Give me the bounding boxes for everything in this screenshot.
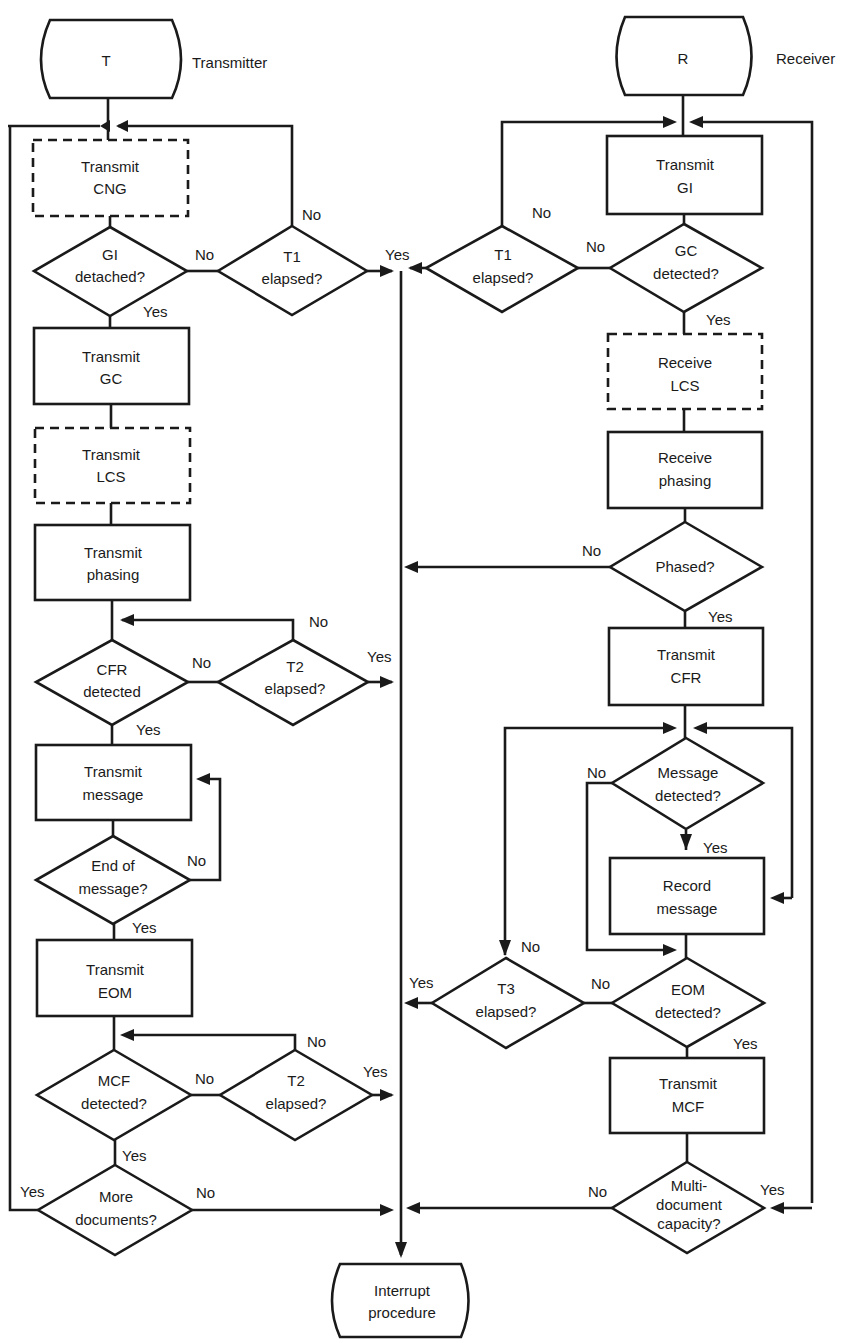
node-label: message [657, 900, 718, 917]
node-label: T1 [494, 246, 512, 263]
node-label: GI [102, 246, 118, 263]
branch-label-no: No [302, 206, 321, 223]
node-label: documents? [75, 1211, 157, 1228]
node-label: CFR [97, 661, 128, 678]
node-label: Transmit [656, 156, 715, 173]
branch-label-yes: Yes [385, 246, 409, 263]
arrow-right-icon [380, 676, 394, 688]
process-transmit-cfr: Transmit CFR [609, 628, 763, 705]
branch-label-no: No [521, 938, 540, 955]
branch-label-no: No [586, 238, 605, 255]
branch-label-yes: Yes [706, 311, 730, 328]
branch-label-no: No [195, 246, 214, 263]
decision-t1-elapsed-transmitter: T1 elapsed? [218, 226, 367, 315]
arrow-left-icon [408, 262, 422, 274]
terminal-label: procedure [368, 1304, 436, 1321]
node-label: detected? [655, 1004, 721, 1021]
branch-label-no: No [196, 1184, 215, 1201]
branch-label-no: No [591, 975, 610, 992]
decision-t2-elapsed-cfr: T2 elapsed? [218, 640, 368, 725]
node-label: Record [663, 877, 711, 894]
branch-label-no: No [532, 204, 551, 221]
branch-label-yes: Yes [363, 1063, 387, 1080]
arrow-left-icon [404, 561, 418, 573]
branch-label-yes: Yes [703, 839, 727, 856]
branch-label-yes: Yes [143, 303, 167, 320]
branch-label-yes: Yes [132, 919, 156, 936]
process-transmit-phasing: Transmit phasing [35, 525, 190, 600]
decision-more-documents: More documents? [38, 1165, 192, 1255]
process-transmit-lcs: Transmit LCS [35, 428, 190, 503]
arrow-left-icon [120, 614, 134, 626]
arrow-right-icon [380, 1204, 394, 1216]
branch-label-no: No [587, 764, 606, 781]
branch-label-no: No [192, 654, 211, 671]
node-label: Transmit [82, 348, 141, 365]
arrow-right-icon [663, 722, 677, 734]
node-label: detected [83, 683, 141, 700]
node-label: GC [675, 242, 698, 259]
node-label: EOM [671, 981, 705, 998]
node-label: Message [658, 764, 719, 781]
node-label: elapsed? [266, 1095, 327, 1112]
node-label: Transmit [84, 763, 143, 780]
fax-protocol-flowchart: T Transmitter R Receiver Interrupt proce… [0, 0, 842, 1343]
arrow-left-icon [770, 1202, 784, 1214]
node-label: capacity? [657, 1215, 720, 1232]
arrow-left-icon [120, 1029, 134, 1041]
terminal-label: Interrupt [374, 1282, 431, 1299]
node-label: End of [91, 857, 135, 874]
process-transmit-message: Transmit message [36, 745, 191, 820]
node-label: phasing [659, 472, 712, 489]
arrow-down-icon [395, 1242, 407, 1258]
node-label: detached? [75, 268, 145, 285]
node-label: LCS [670, 377, 699, 394]
decision-t3-elapsed: T3 elapsed? [432, 958, 584, 1048]
decision-phased: Phased? [610, 522, 762, 611]
branch-label-yes: Yes [136, 721, 160, 738]
decision-message-detected: Message detected? [612, 738, 763, 829]
node-label: detected? [655, 787, 721, 804]
terminal-caption: Receiver [776, 50, 835, 67]
node-label: Transmit [657, 646, 716, 663]
arrow-left-icon [689, 116, 703, 128]
terminal-symbol: R [678, 50, 689, 67]
node-label: Transmit [659, 1075, 718, 1092]
terminal-symbol: T [101, 52, 110, 69]
branch-label-yes: Yes [20, 1183, 44, 1200]
arrow-right-icon [380, 265, 394, 277]
branch-label-no: No [195, 1070, 214, 1087]
node-label: LCS [96, 468, 125, 485]
node-label: Receive [658, 354, 712, 371]
branch-label-yes: Yes [708, 608, 732, 625]
arrow-left-icon [116, 120, 128, 132]
decision-multi-document-capacity: Multi- document capacity? [612, 1162, 764, 1253]
process-transmit-mcf: Transmit MCF [610, 1058, 764, 1133]
node-label: T3 [497, 980, 515, 997]
process-record-message: Record message [610, 858, 764, 934]
node-label: GC [100, 370, 123, 387]
node-label: CFR [671, 669, 702, 686]
process-transmit-gi: Transmit GI [607, 136, 762, 214]
terminal-receiver: R Receiver [617, 17, 836, 95]
process-transmit-eom: Transmit EOM [37, 940, 192, 1016]
arrow-down-icon [680, 834, 692, 850]
decision-end-of-message: End of message? [36, 836, 190, 924]
node-label: More [99, 1188, 133, 1205]
arrow-left-icon [196, 773, 210, 785]
branch-label-yes: Yes [733, 1035, 757, 1052]
node-label: Transmit [82, 446, 141, 463]
node-label: Transmit [86, 961, 145, 978]
node-label: detected? [653, 265, 719, 282]
node-label: EOM [98, 984, 132, 1001]
branch-label-yes: Yes [760, 1181, 784, 1198]
decision-t1-elapsed-receiver: T1 elapsed? [426, 226, 578, 312]
arrow-right-icon [663, 116, 677, 128]
branch-label-no: No [582, 542, 601, 559]
arrow-down-icon [499, 940, 511, 956]
branch-label-yes: Yes [122, 1147, 146, 1164]
arrow-left-icon [404, 997, 418, 1009]
branch-label-yes: Yes [409, 974, 433, 991]
node-label: MCF [672, 1098, 705, 1115]
decision-mcf-detected: MCF detected? [37, 1050, 191, 1140]
